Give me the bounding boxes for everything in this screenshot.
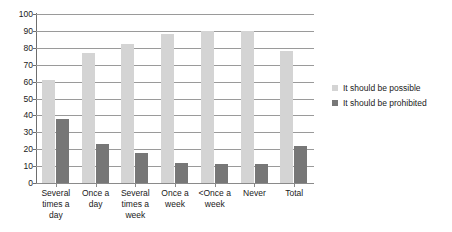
- x-axis-label-line: Never: [236, 188, 274, 199]
- bar: [161, 34, 174, 183]
- legend-swatch-icon: [332, 100, 338, 106]
- x-tick-mark: [254, 183, 255, 187]
- x-axis-label-line: week: [116, 210, 154, 221]
- y-tick-label: 40: [3, 111, 33, 120]
- bar: [135, 153, 148, 183]
- bar-group: [235, 14, 275, 183]
- legend-label: It should be possible: [343, 84, 421, 93]
- bar-groups: [36, 14, 314, 183]
- x-axis-label: Total: [274, 188, 314, 221]
- y-tick-label: 10: [3, 162, 33, 171]
- bar-group: [195, 14, 235, 183]
- x-axis-label-line: times a: [116, 199, 154, 210]
- x-tick-mark: [56, 183, 57, 187]
- x-axis-label: Severaltimes aday: [36, 188, 76, 221]
- bar: [255, 164, 268, 183]
- x-axis-label-line: Several: [37, 188, 75, 199]
- x-axis-label: <Once aweek: [195, 188, 235, 221]
- y-tick-label: 60: [3, 77, 33, 86]
- legend-item[interactable]: It should be possible: [332, 84, 427, 93]
- bar: [294, 146, 307, 183]
- x-axis-label-line: week: [196, 199, 234, 210]
- x-axis-label-line: day: [77, 199, 115, 210]
- bar-chart: 1009080706050403020100 Severaltimes aday…: [0, 0, 452, 232]
- bar: [56, 119, 69, 183]
- bar: [241, 31, 254, 183]
- x-tick-mark: [175, 183, 176, 187]
- x-axis-label-line: <Once a: [196, 188, 234, 199]
- bar: [175, 163, 188, 183]
- legend: It should be possibleIt should be prohib…: [332, 84, 427, 113]
- bar: [96, 144, 109, 183]
- x-axis-label-line: day: [37, 210, 75, 221]
- y-tick-label: 20: [3, 145, 33, 154]
- legend-item[interactable]: It should be prohibited: [332, 99, 427, 108]
- bar-group: [115, 14, 155, 183]
- x-axis-label: Once aday: [76, 188, 116, 221]
- x-tick-mark: [215, 183, 216, 187]
- x-axis-label: Severaltimes aweek: [115, 188, 155, 221]
- legend-label: It should be prohibited: [343, 99, 427, 108]
- x-axis-label-line: Once a: [156, 188, 194, 199]
- y-tick-label: 50: [3, 94, 33, 103]
- x-axis-label-line: Several: [116, 188, 154, 199]
- plot-area: [36, 14, 314, 183]
- y-tick-label: 70: [3, 60, 33, 69]
- bar: [42, 80, 55, 183]
- bar-group: [274, 14, 314, 183]
- y-tick-label: 80: [3, 44, 33, 53]
- y-axis: 1009080706050403020100: [0, 14, 33, 183]
- x-axis-label-line: Once a: [77, 188, 115, 199]
- y-tick-label: 100: [3, 10, 33, 19]
- x-tick-mark: [96, 183, 97, 187]
- legend-swatch-icon: [332, 85, 338, 91]
- bar: [201, 31, 214, 183]
- bar-group: [155, 14, 195, 183]
- x-axis-label: Once aweek: [155, 188, 195, 221]
- bar: [280, 51, 293, 183]
- y-tick-label: 30: [3, 128, 33, 137]
- x-tick-mark: [135, 183, 136, 187]
- x-axis-label-line: week: [156, 199, 194, 210]
- y-tick-label: 0: [3, 179, 33, 188]
- bar: [82, 53, 95, 183]
- x-tick-mark: [294, 183, 295, 187]
- bar-group: [36, 14, 76, 183]
- y-tick-label: 90: [3, 27, 33, 36]
- x-axis-label-line: Total: [275, 188, 313, 199]
- bar: [121, 44, 134, 183]
- bar: [215, 164, 228, 183]
- x-axis-labels: Severaltimes adayOnce adaySeveraltimes a…: [36, 188, 314, 221]
- x-axis-label: Never: [235, 188, 275, 221]
- bar-group: [76, 14, 116, 183]
- x-axis-label-line: times a: [37, 199, 75, 210]
